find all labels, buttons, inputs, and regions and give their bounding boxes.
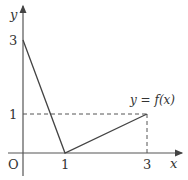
x-tick-1: 1 <box>61 158 69 171</box>
graph-svg <box>0 0 188 180</box>
x-axis-label: x <box>170 157 177 170</box>
y-tick-3: 3 <box>9 34 17 47</box>
origin-label: O <box>8 158 19 171</box>
function-graph: y 3 1 O 1 3 x y = f(x) <box>0 0 188 180</box>
y-axis-label: y <box>10 8 17 21</box>
curve-label: y = f(x) <box>130 94 175 106</box>
function-curve <box>23 40 147 153</box>
x-tick-3: 3 <box>143 158 151 171</box>
y-tick-1: 1 <box>9 108 17 121</box>
